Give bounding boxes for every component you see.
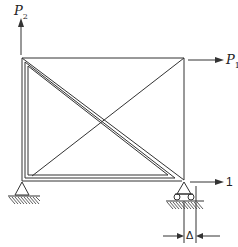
- unit-arrowhead: [215, 179, 224, 185]
- delta-arrowhead-right: [196, 233, 203, 239]
- roller-wheel-left: [174, 194, 180, 200]
- unit-load-label: 1: [226, 176, 233, 188]
- delta-label: Δ: [186, 230, 193, 241]
- diagonal-brace-single: [32, 58, 184, 176]
- p1-arrowhead: [215, 57, 224, 63]
- p2-label: P2: [14, 4, 28, 21]
- delta-arrowhead-left: [177, 233, 184, 239]
- ground-hatch-left: [9, 197, 40, 204]
- ground-hatch-right: [167, 202, 203, 209]
- p1-label: P1: [226, 53, 238, 70]
- frame-diagram: [0, 0, 238, 247]
- roller-support-right: [177, 182, 191, 194]
- pin-support-left: [15, 182, 29, 195]
- roller-wheel-right: [188, 194, 194, 200]
